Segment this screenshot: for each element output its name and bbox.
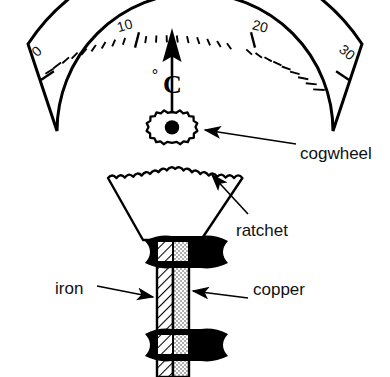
scale-arc [28,0,362,131]
scale-label-20: 20 [251,17,270,36]
leader-iron [97,286,153,297]
thermometer-diagram: 0 10 20 30 ° C [0,0,390,377]
label-iron: iron [55,279,83,298]
label-ratchet: ratchet [236,221,288,240]
cogwheel-hub [165,120,179,134]
degree-symbol: ° [152,66,158,82]
label-copper: copper [253,280,305,299]
leader-cogwheel [205,130,296,144]
scale-label-10: 10 [115,15,135,35]
ratchet [108,167,242,240]
label-cogwheel: cogwheel [300,144,372,163]
cogwheel [147,110,198,144]
leader-copper [193,291,248,298]
celsius-letter: C [163,70,182,99]
unit-label-celsius: ° C [152,66,182,99]
